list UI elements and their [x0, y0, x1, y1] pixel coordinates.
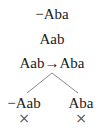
closed-branch-right-icon: ×: [75, 111, 87, 125]
branch-right-node: Aba: [69, 96, 94, 111]
branch-left-node: −Aab: [7, 96, 40, 111]
left-branch-line: [27, 73, 52, 93]
closed-branch-left-icon: ×: [18, 111, 30, 125]
right-branch-line: [52, 73, 78, 93]
